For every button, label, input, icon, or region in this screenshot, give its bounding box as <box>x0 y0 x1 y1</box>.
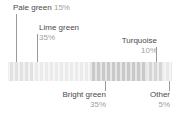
stacked-bar <box>8 62 172 81</box>
bar-segment-bright-green <box>90 62 147 81</box>
segment-label-other: Other 5% <box>132 90 170 109</box>
segment-label-bright-green: Bright green 35% <box>50 90 106 109</box>
bar-segment-lime-green <box>33 62 90 81</box>
segment-label-other-name: Other <box>150 90 170 99</box>
segment-label-bright-green-name: Bright green <box>62 90 106 99</box>
segment-label-pale-green-name: Pale green <box>13 3 52 12</box>
bar-segment-turquoise <box>147 62 163 81</box>
bar-segment-pale-green <box>8 62 33 81</box>
segment-label-turquoise: Turquoise 10% <box>108 36 157 55</box>
segment-label-other-pct: 5% <box>132 100 170 110</box>
bar-segment-other <box>164 62 172 81</box>
leader-line-lime-green <box>37 34 38 62</box>
segment-label-turquoise-name: Turquoise <box>122 36 157 45</box>
segment-label-lime-green-name: Lime green <box>39 23 79 32</box>
segment-label-pale-green-pct: 15% <box>54 3 70 12</box>
segment-label-bright-green-pct: 35% <box>50 100 106 110</box>
stacked-bar-chart: Pale green 15% Lime green 35% Turquoise … <box>0 0 179 120</box>
segment-label-pale-green: Pale green 15% <box>13 3 70 13</box>
segment-label-lime-green-pct: 35% <box>39 33 79 43</box>
segment-label-lime-green: Lime green 35% <box>39 23 79 42</box>
segment-label-turquoise-pct: 10% <box>108 46 157 56</box>
leader-line-pale-green <box>16 14 17 62</box>
